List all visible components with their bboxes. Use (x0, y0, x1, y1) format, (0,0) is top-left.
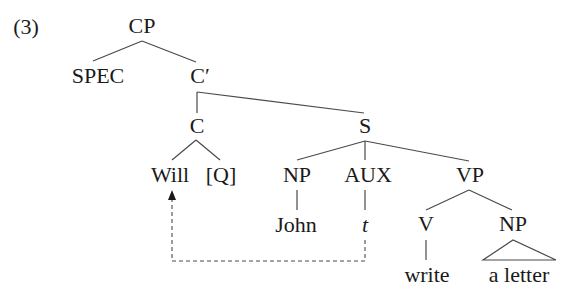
node-np-object: NP (499, 213, 527, 235)
node-a-letter: a letter (489, 264, 549, 286)
np-triangle (483, 240, 556, 260)
node-c: C (190, 115, 205, 137)
edge-c-q (196, 140, 220, 160)
movement-path (172, 199, 365, 261)
example-number: (3) (13, 16, 39, 38)
node-spec: SPEC (72, 65, 125, 87)
edge-s-np (297, 141, 365, 160)
node-cp: CP (129, 15, 156, 37)
movement-arrowhead-icon (168, 190, 176, 200)
tree-edges (0, 0, 576, 301)
edge-cp-spec (93, 41, 142, 61)
node-vp: VP (456, 164, 484, 186)
node-trace: t (362, 214, 368, 236)
edge-cbar-s (197, 92, 364, 113)
node-np-subject: NP (283, 164, 311, 186)
edge-vp-v (426, 190, 469, 210)
node-aux: AUX (344, 164, 392, 186)
edge-vp-np (469, 190, 512, 210)
node-write: write (404, 264, 449, 286)
node-c-bar: C′ (190, 65, 210, 87)
node-q: [Q] (206, 164, 237, 186)
node-will: Will (151, 164, 189, 186)
node-s: S (359, 115, 371, 137)
node-john: John (275, 214, 317, 236)
edge-s-vp (365, 141, 469, 161)
edge-c-will (172, 140, 196, 160)
edge-cp-cbar (142, 41, 196, 62)
node-v: V (418, 213, 434, 235)
